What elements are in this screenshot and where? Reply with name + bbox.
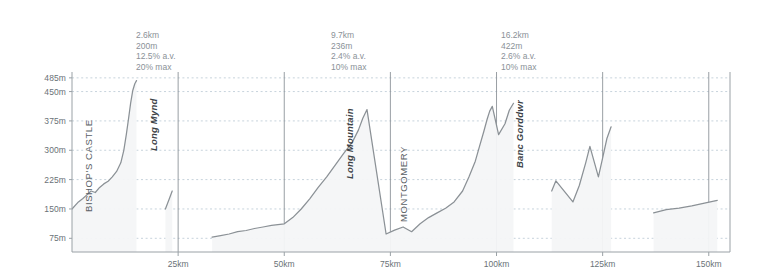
climb-average-gradient: 2.4% a.v.	[331, 51, 366, 62]
x-tick-label: 50km	[254, 259, 314, 269]
climb-distance: 9.7km	[331, 30, 366, 41]
x-axis-ticks	[178, 252, 709, 256]
climb-stats-long-mountain: 9.7km 236m 2.4% a.v. 10% max	[331, 30, 366, 72]
climb-ascent: 200m	[136, 41, 176, 52]
x-tick-label: 150km	[679, 259, 739, 269]
y-tick-label: 150m	[22, 204, 66, 214]
x-tick-label: 75km	[360, 259, 420, 269]
elevation-profile-chart: 485m450m375m300m225m150m75m 25km50km75km…	[0, 0, 769, 280]
y-tick-label: 375m	[22, 116, 66, 126]
climb-ascent: 422m	[501, 41, 536, 52]
climb-average-gradient: 2.6% a.v.	[501, 51, 536, 62]
climb-ascent: 236m	[331, 41, 366, 52]
profile-plot-area	[0, 0, 769, 280]
climb-distance: 16.2km	[501, 30, 536, 41]
x-tick-label: 100km	[467, 259, 527, 269]
climb-max-gradient: 20% max	[136, 62, 176, 73]
climb-average-gradient: 12.5% a.v.	[136, 51, 176, 62]
y-tick-label: 75m	[22, 233, 66, 243]
climb-stats-banc-gorddwr: 16.2km 422m 2.6% a.v. 10% max	[501, 30, 536, 72]
place-label-bishops-castle: BISHOP'S CASTLE	[83, 119, 94, 212]
elevation-series	[72, 81, 717, 252]
y-tick-label: 485m	[22, 73, 66, 83]
y-tick-label: 225m	[22, 175, 66, 185]
place-label-montgomery: MONTGOMERY	[398, 146, 409, 222]
y-tick-label: 450m	[22, 87, 66, 97]
climb-distance: 2.6km	[136, 30, 176, 41]
x-tick-label: 25km	[148, 259, 208, 269]
climb-max-gradient: 10% max	[331, 62, 366, 73]
place-label-long-mynd: Long Mynd	[148, 99, 159, 151]
place-label-banc-gorddwr: Banc Gorddwr	[514, 100, 525, 168]
place-label-long-mountain: Long Mountain	[344, 108, 355, 179]
climb-max-gradient: 10% max	[501, 62, 536, 73]
climb-stats-long-mynd: 2.6km 200m 12.5% a.v. 20% max	[136, 30, 176, 72]
x-tick-label: 125km	[573, 259, 633, 269]
y-tick-label: 300m	[22, 145, 66, 155]
